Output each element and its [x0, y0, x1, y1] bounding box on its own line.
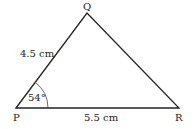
vertex-q-label: Q: [83, 1, 91, 12]
triangle-diagram: 54° 4.5 cm 5.5 cm Q P R: [0, 0, 194, 129]
triangle-figure: 54° 4.5 cm 5.5 cm Q P R: [0, 0, 194, 129]
side-pq-label: 4.5 cm: [20, 48, 55, 59]
angle-p-label: 54°: [28, 92, 46, 103]
side-pr-label: 5.5 cm: [84, 112, 119, 123]
vertex-p-label: P: [13, 112, 20, 123]
vertex-r-label: R: [175, 112, 183, 123]
